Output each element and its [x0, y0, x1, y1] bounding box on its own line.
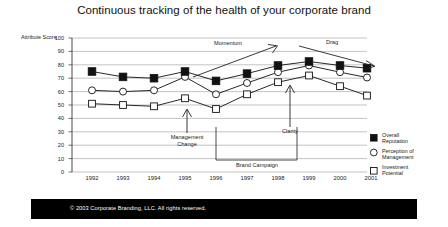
series-overall-reputation — [88, 58, 371, 85]
clarity-arrow — [286, 85, 295, 127]
annotation-clarity: Clarity — [272, 128, 308, 135]
legend-marker-investment-potential — [371, 168, 378, 175]
momentum-arrow — [193, 45, 278, 78]
legend-marker-perception-of-management — [370, 149, 377, 156]
y-axis-ticks — [69, 38, 73, 172]
legend-label-perception-of-management: Perception of Management — [382, 148, 414, 160]
chart-plot-area — [0, 0, 448, 227]
annotation-drag: Drag — [316, 39, 348, 46]
annotation-brand-campaign: Brand Campaign — [221, 162, 293, 169]
legend-marker-overall-reputation — [371, 135, 378, 142]
management-change-arrow — [183, 109, 192, 133]
legend-label-investment-potential: Investment Potential — [382, 164, 408, 176]
legend-label-overall-reputation: Overall Reputation — [382, 132, 408, 144]
series-perception-of-management — [89, 62, 371, 98]
annotation-momentum: Momentum — [200, 40, 256, 47]
copyright-text: © 2003 Corporate Branding, LLC. All righ… — [70, 205, 206, 211]
marker-filled-square — [88, 58, 371, 85]
annotation-management-change: Management Change — [163, 134, 211, 147]
marker-open-circle — [89, 62, 371, 98]
slide-canvas: Continuous tracking of the health of you… — [0, 0, 448, 227]
